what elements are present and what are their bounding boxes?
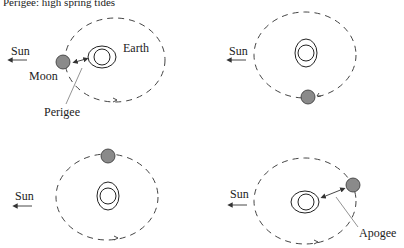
- moon-orbit: [56, 154, 158, 240]
- moon: [56, 55, 70, 69]
- earth: [94, 49, 110, 65]
- diagram-title: Perigee: high spring tides: [3, 0, 115, 8]
- panel-apogee: Sun Apogee: [230, 158, 396, 244]
- sun-label: Sun: [230, 187, 249, 201]
- perigee-leader-line: [66, 68, 82, 104]
- distance-arrow-icon: [75, 59, 86, 62]
- moon: [101, 149, 115, 163]
- tides-diagram: Perigee: high spring tides Sun Earth Moo…: [0, 0, 404, 248]
- moon-label: Moon: [29, 69, 58, 83]
- orbit-direction-arrow-icon: [113, 98, 117, 102]
- earth: [298, 194, 314, 210]
- distance-arrow-icon: [323, 189, 343, 197]
- sun-label: Sun: [229, 44, 248, 58]
- panel-moon-top: Sun: [15, 149, 158, 240]
- earth: [298, 45, 314, 61]
- moon: [301, 90, 315, 104]
- panel-moon-bottom: Sun: [229, 12, 356, 104]
- earth: [100, 188, 116, 204]
- moon: [346, 178, 360, 192]
- sun-label: Sun: [15, 189, 34, 203]
- apogee-label: Apogee: [359, 226, 396, 240]
- orbit-direction-arrow-icon: [317, 93, 321, 96]
- panel-perigee-spring: Sun Earth Moon Perigee: [10, 18, 165, 119]
- sun-label: Sun: [11, 44, 30, 58]
- orbit-direction-arrow-icon: [114, 236, 118, 240]
- moon-orbit: [254, 158, 356, 244]
- earth-label: Earth: [123, 41, 149, 55]
- perigee-label: Perigee: [44, 105, 80, 119]
- orbit-direction-arrow-icon: [314, 240, 318, 244]
- moon-orbit: [254, 12, 356, 98]
